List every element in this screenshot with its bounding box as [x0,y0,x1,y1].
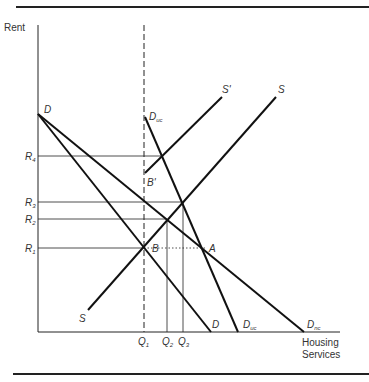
r2-label: R2 [25,214,36,226]
dnc-bottom-label: Dnc [307,319,321,331]
point-b-prime-label: B' [147,177,157,188]
r3-label: R3 [25,197,36,209]
demand-curve-duc [145,117,238,332]
point-a-label: A [208,243,216,254]
x-axis-label-line1: Housing [302,337,339,348]
d-bottom-label: D [212,319,219,330]
q3-label: Q3 [178,336,190,348]
q2-label: Q2 [162,336,174,348]
s-prime-label: S' [222,84,232,95]
supply-curve-s-prime [145,97,222,173]
r4-label: R4 [25,151,36,163]
q1-label: Q1 [138,336,149,348]
s-bottom-label: S [79,313,86,324]
r1-label: R1 [25,243,36,255]
y-axis-label: Rent [4,22,25,33]
supply-curve-s [88,97,276,310]
rent-control-diagram: Rent Housing Services R4 R3 R2 R1 Q1 Q2 … [0,0,369,382]
point-b-label: B [152,243,159,254]
demand-curve-d [38,114,211,332]
duc-bottom-label: Duc [243,319,257,331]
d-top-label: D [44,104,51,115]
duc-top-label: Duc [149,111,163,123]
s-top-label: S [278,84,285,95]
x-axis-label-line2: Services [302,349,340,360]
